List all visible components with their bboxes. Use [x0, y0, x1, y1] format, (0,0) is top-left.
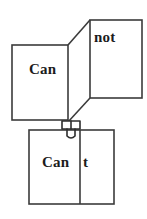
panel-label-cant-left: Can	[42, 155, 69, 170]
panel-label-not: not	[94, 30, 115, 45]
panel-label-cant-right: t	[83, 155, 88, 170]
diagram-canvas: Can not Can t	[0, 0, 147, 219]
fold-lines	[68, 20, 90, 122]
panel-can-shape	[12, 45, 68, 120]
diagram-svg	[0, 0, 147, 219]
panel-label-can: Can	[29, 62, 56, 77]
